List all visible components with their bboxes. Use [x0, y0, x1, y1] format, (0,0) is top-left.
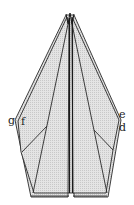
label-d: d: [119, 121, 126, 134]
label-g: g: [8, 114, 15, 127]
left-flap: [18, 17, 69, 193]
origami-diagram: g f e d: [0, 0, 134, 205]
label-e: e: [119, 108, 126, 121]
